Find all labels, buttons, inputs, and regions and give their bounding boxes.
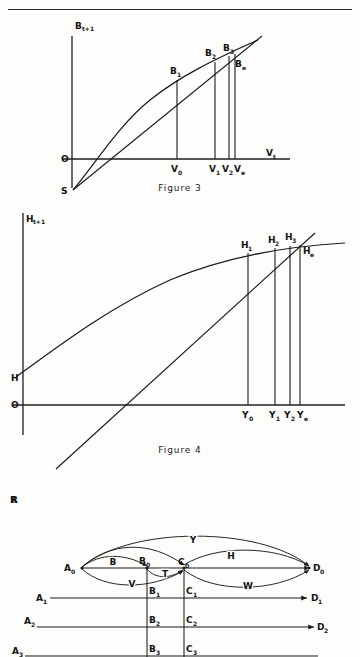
figure3-origin-label: O (61, 154, 69, 164)
figure5-arc-label-W: W (243, 581, 253, 591)
figure5-arc-label-V: V (129, 579, 136, 589)
figure3-point-sublabel: e (242, 64, 246, 71)
figure3-point-label: B (170, 66, 177, 76)
figure3-x-axis-label: V (266, 148, 273, 158)
figure5-row1-mid1-label: B (149, 586, 156, 596)
figure-3-caption: Figure 3 (0, 183, 360, 193)
figure3-point-label: B (205, 48, 212, 58)
figure5-row3-mid2-label: C (186, 644, 193, 654)
figure4-intercept-label: H (11, 373, 19, 383)
figure3-tick-label: V (209, 164, 216, 174)
running-head: ECONOMIC MODELS (0, 0, 360, 2)
figure3-tick-sublabel: 1 (216, 169, 220, 176)
figure3-tick-sublabel: e (241, 169, 245, 176)
figure5-row2-mid2-sublabel: 2 (193, 620, 197, 627)
figure5-node-sublabel: 0 (185, 562, 189, 569)
figure5-arc-label-B: B (110, 557, 117, 567)
figure5-arc-label-Y: Y (189, 535, 197, 545)
figure5-arc-label-T: T (162, 569, 169, 579)
figure4-tick-label: Y (241, 410, 249, 420)
figure4-origin-label: O (11, 400, 19, 410)
figure3-point-sublabel: 2 (212, 53, 216, 60)
figure4-point-sublabel: 1 (248, 245, 252, 252)
figure5-row2-right-sublabel: 2 (324, 627, 328, 634)
figure5-node-dot (307, 566, 310, 569)
figure3-tick-label: V (234, 164, 241, 174)
figure3-tick-sublabel: 0 (178, 169, 182, 176)
figure-4-caption: Figure 4 (0, 445, 360, 455)
figure4-tick-label: Y (268, 410, 276, 420)
figure5-node-sublabel: 0 (146, 561, 150, 568)
figure5-arc-label-H: H (227, 551, 235, 561)
figure5-row1-mid2-label: C (186, 586, 193, 596)
figure5-row2-mid1-label: B (149, 615, 156, 625)
figure4-tick-label: Y (296, 410, 304, 420)
figure5-node-label: B (139, 556, 146, 566)
figure5-row2-mid2-label: C (186, 615, 193, 625)
figure5-row2-mid1-sublabel: 2 (156, 620, 160, 627)
figure4-tick-sublabel: 0 (249, 415, 253, 422)
figure3-point-label: B (235, 59, 242, 69)
figure5-arc-H (184, 550, 309, 566)
figure-5: A 0 B 0 C 0 D 0 Y H B V T W A 1 B 1 C (0, 520, 360, 657)
figure-5-svg: A 0 B 0 C 0 D 0 Y H B V T W A 1 B 1 C (0, 520, 360, 657)
figure5-row1-right-sublabel: 1 (318, 598, 322, 605)
figure4-tick-sublabel: 2 (291, 415, 295, 422)
figure5-node-dot (80, 566, 83, 569)
figure3-x-axis-sublabel: t (273, 153, 276, 160)
figure5-row1-left-sublabel: 1 (43, 598, 47, 605)
figure5-row3-mid1-sublabel: 3 (156, 649, 160, 656)
figure5-row1-mid1-sublabel: 1 (156, 591, 160, 598)
figure3-tick-sublabel: 2 (229, 169, 233, 176)
figure4-production-curve (16, 243, 345, 377)
figure4-y-axis-sublabel: t+1 (33, 218, 45, 225)
header-rule (8, 9, 352, 10)
figure-4-svg: H t+1 H O H 1 H 2 H 3 H e Y 0 Y 1 Y 2 Y … (0, 205, 360, 435)
figure5-node-label: A (64, 563, 71, 573)
figure5-node-sublabel: 0 (71, 568, 75, 575)
figure-3-svg: B t+1 V t O S B 1 B 2 B 3 B e V 0 V 1 V … (0, 14, 360, 194)
figure5-row3-mid2-sublabel: 3 (193, 649, 197, 656)
figure4-tick-sublabel: e (304, 415, 308, 422)
figure5-row3-mid1-label: B (149, 644, 156, 654)
figure4-45-degree-ray (56, 233, 315, 469)
figure5-node-label: C (178, 557, 185, 567)
figure5-row1-left-label: A (36, 593, 43, 603)
figure4-point-sublabel: 3 (292, 237, 296, 244)
figure5-row2-left-sublabel: 2 (31, 621, 35, 628)
figure3-tick-label: V (171, 164, 178, 174)
figure5-row2-left-label: A (24, 616, 31, 626)
figure5-row3-left-sublabel: 3 (19, 651, 23, 657)
figure4-point-sublabel: e (310, 251, 314, 258)
figure3-point-label: B (223, 43, 230, 53)
figure4-R-label-overlay: R (10, 495, 17, 505)
figure-4: H t+1 H O H 1 H 2 H 3 H e Y 0 Y 1 Y 2 Y … (0, 205, 360, 435)
figure5-row1-mid2-sublabel: 1 (193, 591, 197, 598)
figure5-row3-left-label: A (12, 646, 19, 656)
figure3-y-axis-label: B (75, 21, 82, 31)
figure5-node-sublabel: 0 (320, 568, 324, 575)
figure4-tick-label: Y (283, 410, 291, 420)
page-canvas: ECONOMIC MODELS B t+1 V t O (0, 0, 360, 657)
figure3-y-axis-sublabel: t+1 (82, 25, 94, 32)
figure-3: B t+1 V t O S B 1 B 2 B 3 B e V 0 V 1 V … (0, 14, 360, 194)
figure4-tick-sublabel: 1 (276, 415, 280, 422)
figure3-point-sublabel: 1 (177, 71, 181, 78)
figure3-tick-label: V (222, 164, 229, 174)
figure4-point-sublabel: 2 (275, 240, 279, 247)
figure3-point-sublabel: 3 (230, 48, 234, 55)
